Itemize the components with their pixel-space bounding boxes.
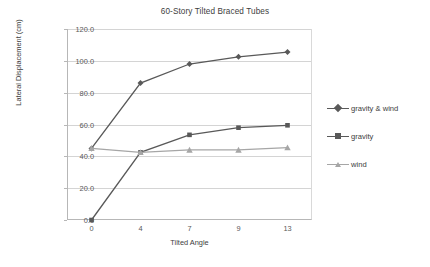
x-axis-tick-label: 4 [121, 224, 161, 233]
legend-item-gravity[interactable]: gravity [327, 122, 427, 150]
series-line [92, 125, 288, 220]
y-axis-title: Lateral Displacement (cm) [14, 0, 23, 133]
chart-container: 60-Story Tilted Braced Tubes 0.020.040.0… [0, 0, 430, 267]
data-point-marker [187, 133, 192, 138]
chart-legend: gravity & windgravitywind [327, 94, 427, 178]
data-point-marker [285, 123, 290, 128]
x-axis-tick-label: 9 [219, 224, 259, 233]
data-point-marker [89, 218, 94, 223]
x-axis-tick-label: 0 [72, 224, 112, 233]
data-point-marker [285, 49, 291, 55]
legend-label: gravity [351, 132, 373, 141]
legend-label: gravity & wind [351, 104, 398, 113]
legend-item-gravity-wind[interactable]: gravity & wind [327, 94, 427, 122]
x-axis-tick-label: 7 [170, 224, 210, 233]
legend-marker-square-icon [335, 133, 341, 139]
data-point-marker [187, 61, 193, 67]
legend-marker-triangle-icon [335, 162, 341, 167]
legend-swatch [327, 103, 349, 113]
legend-swatch [327, 131, 349, 141]
legend-swatch [327, 159, 349, 169]
x-axis-tick-label: 13 [268, 224, 308, 233]
legend-marker-diamond-icon [334, 104, 342, 112]
chart-title: 60-Story Tilted Braced Tubes [0, 7, 430, 16]
x-axis-title: Tilted Angle [67, 238, 312, 247]
data-point-marker [236, 54, 242, 60]
legend-item-wind[interactable]: wind [327, 150, 427, 178]
series-plot [67, 29, 312, 220]
data-point-marker [236, 125, 241, 130]
series-gravity [89, 123, 290, 222]
series-wind [88, 144, 290, 155]
legend-label: wind [351, 160, 367, 169]
y-axis-tick-mark [64, 220, 67, 221]
